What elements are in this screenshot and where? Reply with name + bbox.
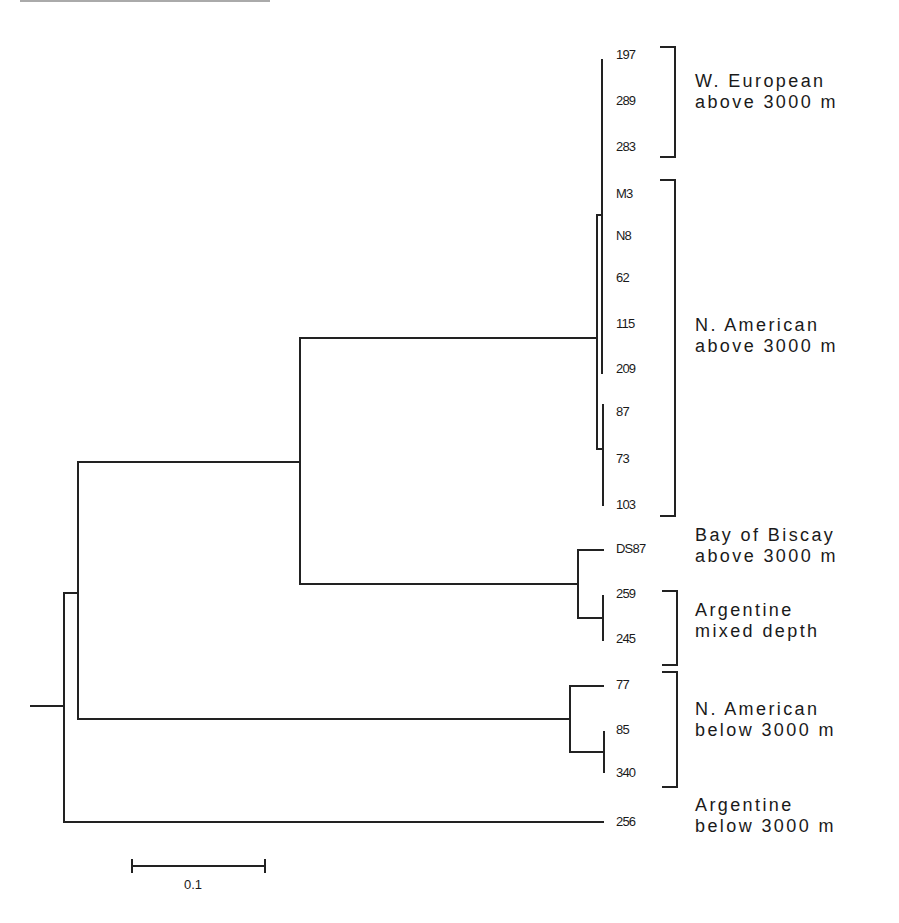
tip-label-73: 73 [616, 451, 629, 467]
group-label-n-american-above: N. American above 3000 m [695, 315, 838, 357]
tip-label-283: 283 [616, 139, 635, 155]
tip-label-245: 245 [616, 631, 635, 647]
tip-label-197: 197 [616, 47, 635, 63]
group-label-line1: N. American [695, 699, 836, 720]
group-label-n-american-below: N. American below 3000 m [695, 699, 836, 741]
group-label-line1: N. American [695, 315, 838, 336]
group-label-w-european-above: W. European above 3000 m [695, 71, 838, 113]
group-label-line2: below 3000 m [695, 816, 836, 837]
tip-label-103: 103 [616, 497, 635, 513]
group-label-line2: above 3000 m [695, 92, 838, 113]
tip-label-87: 87 [616, 404, 629, 420]
tip-label-ds87: DS87 [616, 541, 645, 557]
tip-label-62: 62 [616, 270, 629, 286]
group-label-argentine-mixed: Argentine mixed depth [695, 600, 819, 642]
tip-label-77: 77 [616, 677, 629, 693]
tip-label-289: 289 [616, 93, 635, 109]
group-label-line2: above 3000 m [695, 336, 838, 357]
tip-label-n8: N8 [616, 228, 631, 244]
tree-branches [0, 0, 899, 923]
tip-label-259: 259 [616, 586, 635, 602]
tip-label-115: 115 [616, 316, 634, 332]
tip-label-256: 256 [616, 814, 635, 830]
group-label-bay-of-biscay: Bay of Biscay above 3000 m [695, 525, 838, 567]
group-label-line2: above 3000 m [695, 546, 838, 567]
group-label-line2: mixed depth [695, 621, 819, 642]
tip-label-m3: M3 [616, 186, 632, 202]
group-label-line2: below 3000 m [695, 720, 836, 741]
group-label-line1: Argentine [695, 600, 819, 621]
tip-label-340: 340 [616, 765, 635, 781]
scale-bar-label: 0.1 [184, 877, 202, 892]
tip-label-209: 209 [616, 361, 635, 377]
tip-label-85: 85 [616, 722, 629, 738]
group-label-line1: W. European [695, 71, 838, 92]
group-label-line1: Argentine [695, 795, 836, 816]
group-label-argentine-below: Argentine below 3000 m [695, 795, 836, 837]
group-label-line1: Bay of Biscay [695, 525, 838, 546]
